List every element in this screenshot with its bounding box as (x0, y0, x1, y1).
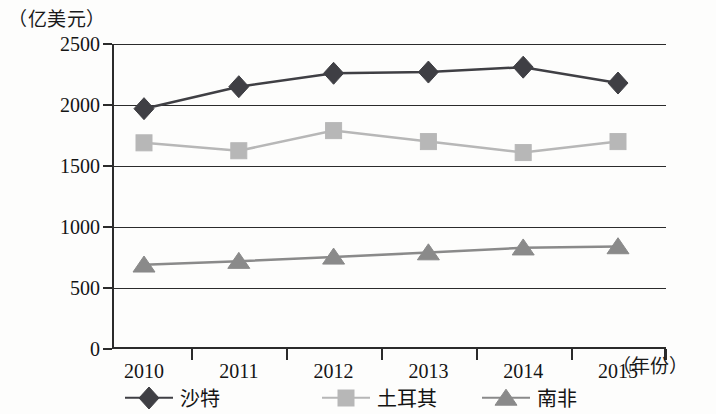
y-axis-tick-label: 1500 (60, 155, 100, 178)
y-axis-tick-label: 2000 (60, 94, 100, 117)
plot-area: 05001000150020002500 2010201120122013201… (112, 44, 666, 349)
series-line (144, 67, 618, 108)
data-point-marker (610, 134, 626, 150)
x-axis-unit-label: （年份） (612, 351, 688, 378)
x-axis-tick-label: 2011 (219, 360, 258, 383)
y-axis-unit-label: （亿美元） (8, 4, 106, 31)
data-point-marker (134, 98, 154, 120)
y-axis-tick (103, 348, 112, 350)
data-point-marker (326, 123, 342, 139)
data-point-marker (420, 134, 436, 150)
y-axis-tick (103, 104, 112, 106)
series-line (144, 131, 618, 153)
x-axis-tick (381, 349, 383, 360)
legend-item[interactable]: 南非 (482, 383, 577, 412)
data-point-marker (136, 135, 152, 151)
diamond-marker-icon (125, 388, 173, 408)
y-axis-tick (103, 165, 112, 167)
chart-figure: （亿美元） 05001000150020002500 2010201120122… (0, 0, 716, 414)
y-axis-tick-label: 500 (70, 277, 100, 300)
x-axis-tick (476, 349, 478, 360)
x-axis-tick-label: 2013 (408, 360, 448, 383)
data-point-marker (515, 145, 531, 161)
triangle-marker-icon (482, 388, 530, 408)
x-axis-tick (191, 349, 193, 360)
legend-label: 南非 (537, 383, 577, 412)
legend-label: 沙特 (180, 383, 220, 412)
x-axis-tick-label: 2014 (503, 360, 543, 383)
y-axis-tick-label: 0 (90, 338, 100, 361)
legend-item[interactable]: 土耳其 (322, 383, 437, 412)
legend-item[interactable]: 沙特 (125, 383, 220, 412)
legend-label: 土耳其 (377, 383, 437, 412)
square-marker-icon (322, 388, 370, 408)
x-axis-tick (286, 349, 288, 360)
x-axis-tick (571, 349, 573, 360)
x-axis-tick-label: 2010 (124, 360, 164, 383)
x-axis-tick-label: 2012 (314, 360, 354, 383)
y-axis-tick (103, 287, 112, 289)
data-point-marker (229, 76, 249, 98)
data-point-marker (231, 143, 247, 159)
data-point-marker (608, 72, 628, 94)
series-line (144, 247, 618, 265)
data-point-marker (513, 56, 533, 78)
y-axis-tick-label: 2500 (60, 33, 100, 56)
y-axis-tick (103, 43, 112, 45)
y-axis-tick-label: 1000 (60, 216, 100, 239)
data-point-marker (324, 62, 344, 84)
chart-legend: 沙特土耳其南非 (0, 381, 716, 414)
y-axis-tick (103, 226, 112, 228)
data-point-marker (418, 61, 438, 83)
series-layer (112, 44, 666, 349)
